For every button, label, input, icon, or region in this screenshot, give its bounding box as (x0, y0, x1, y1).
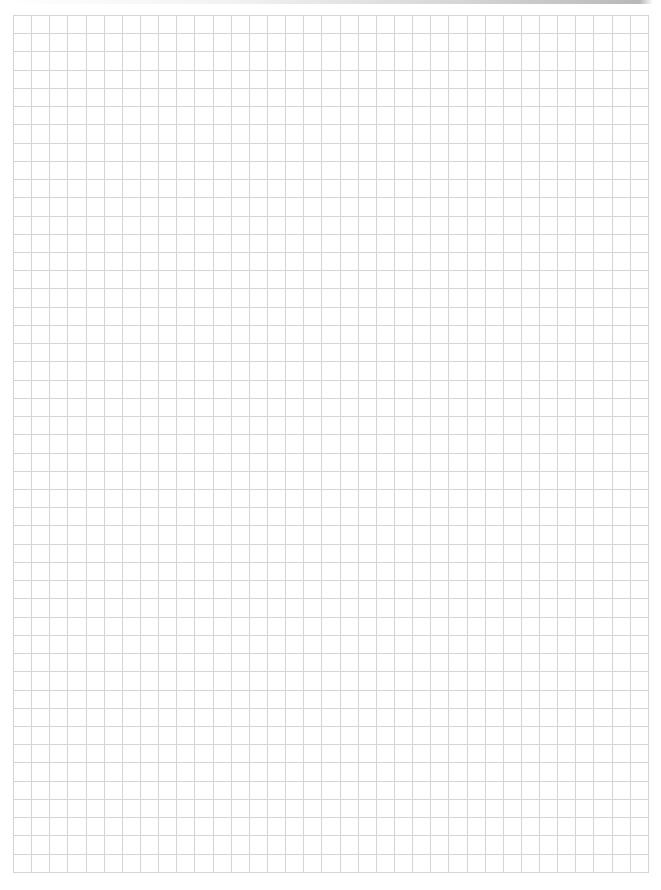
grid-lines (13, 15, 649, 873)
graph-paper-grid (13, 15, 649, 873)
scan-shadow-edge (0, 0, 653, 4)
